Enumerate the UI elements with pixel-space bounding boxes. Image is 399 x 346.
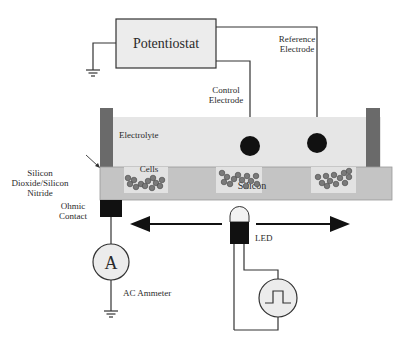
reference-electrode-label-2: Electrode	[280, 44, 314, 54]
control-electrode	[240, 136, 260, 156]
potentiostat: Potentiostat	[116, 19, 216, 68]
ohmic-contact-label-1: Ohmic	[61, 201, 86, 211]
insulator-label-1: Silicon	[27, 168, 53, 178]
insulator-label-3: Nitride	[27, 188, 53, 198]
ammeter-label: AC Ammeter	[123, 288, 171, 298]
ground-icon	[104, 311, 118, 317]
led-label: LED	[255, 233, 273, 243]
lapps-diagram: Potentiostat Reference Electrode Control…	[0, 0, 399, 346]
ammeter-symbol: A	[105, 253, 118, 273]
electrolyte-label: Electrolyte	[119, 130, 158, 140]
ground-icon	[86, 43, 116, 76]
pulse-generator-icon	[234, 279, 297, 330]
insulator-pointer	[86, 155, 100, 168]
control-electrode-label-2: Electrode	[209, 95, 243, 105]
potentiostat-label: Potentiostat	[133, 36, 199, 51]
ohmic-contact	[100, 200, 122, 217]
ohmic-contact-label-2: Contact	[59, 211, 87, 221]
reference-electrode-label-1: Reference	[279, 34, 315, 44]
electrolyte	[100, 117, 381, 167]
insulator-label-2: Dioxide/Silicon	[12, 178, 69, 188]
chamber-wall-left	[100, 108, 113, 168]
reference-electrode	[307, 133, 327, 153]
control-electrode-label-1: Control	[212, 85, 240, 95]
chamber-wall-right	[366, 108, 380, 168]
cells-label: Cells	[140, 164, 159, 174]
